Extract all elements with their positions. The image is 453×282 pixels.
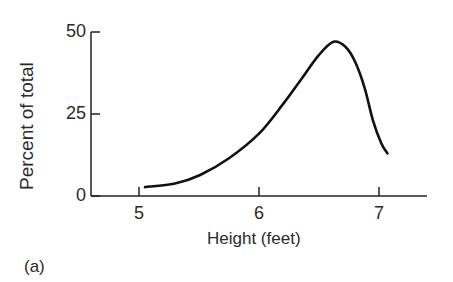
- x-axis-label: Height (feet): [207, 230, 301, 247]
- x-ticks: [139, 187, 379, 196]
- y-tick-label: 50: [66, 22, 86, 40]
- y-axis-label: Percent of total: [16, 62, 38, 190]
- y-ticks: [91, 32, 100, 196]
- x-tick-label: 6: [254, 204, 264, 222]
- y-tick-label: 0: [76, 186, 86, 204]
- x-tick-label: 5: [134, 204, 144, 222]
- panel-label: (a): [24, 258, 45, 275]
- x-tick-label: 7: [374, 204, 384, 222]
- y-tick-label: 25: [66, 104, 86, 122]
- distribution-curve: [145, 42, 387, 188]
